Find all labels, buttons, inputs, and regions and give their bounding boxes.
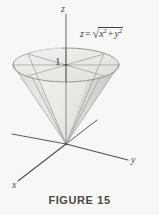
figure-caption: FIGURE 15 [0,194,159,206]
equation-equals: = [84,28,92,39]
axis-front-arms [18,144,128,181]
surface-equation: z=√x2+y2 [80,26,123,41]
axis-label-x: x [12,180,16,190]
axis-label-y: y [131,155,135,165]
axis-x-positive [18,144,66,181]
axis-y-positive [66,144,128,160]
axis-y-negative [12,134,66,144]
figure-container: z y x 1 z=√x2+y2 FIGURE 15 [0,0,159,215]
axis-label-z: z [61,4,65,14]
origin-point [65,143,67,145]
axis-tick-label-1: 1 [55,56,61,67]
rim-center-point [65,64,67,66]
radical-sign-icon: √ [93,27,100,41]
equation-radical: √x2+y2 [92,26,124,41]
equation-term2-exponent: 2 [119,27,122,34]
radical-body: x2+y2 [98,27,123,40]
